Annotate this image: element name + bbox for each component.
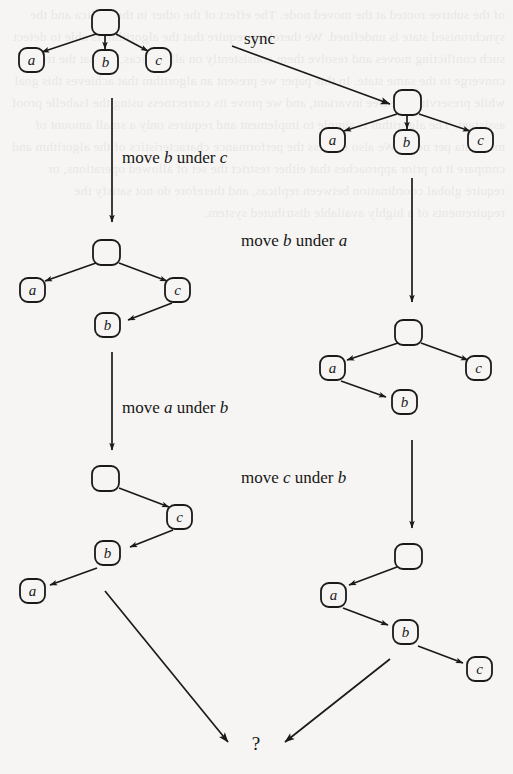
tree-right-mid-root-node[interactable] xyxy=(395,320,422,345)
tree-initial-node-c-label: c xyxy=(155,52,162,68)
tree-left-mid-edge-root-a xyxy=(45,263,96,281)
question-mark-label: ? xyxy=(252,733,260,754)
tree-synced-node-c[interactable]: c xyxy=(468,128,493,152)
sync-label: sync xyxy=(244,29,276,48)
tree-right-mid-node-b[interactable]: b xyxy=(392,390,417,414)
tree-synced: a b c xyxy=(320,90,493,154)
tree-right-mid: a c b xyxy=(320,320,491,414)
tree-right-bottom: a b c xyxy=(321,544,492,681)
tree-synced-node-a[interactable]: a xyxy=(320,128,345,152)
tree-synced-node-b[interactable]: b xyxy=(394,130,419,154)
tree-right-bottom-edge-b-c xyxy=(418,646,463,663)
tree-left-mid-node-a-label: a xyxy=(29,282,37,298)
tree-initial: a b c xyxy=(19,10,171,74)
tree-initial-root-node[interactable] xyxy=(92,10,119,35)
tree-synced-root-node[interactable] xyxy=(394,90,421,115)
tree-left-bottom-edge-c-b xyxy=(130,530,173,547)
tree-left-mid-root-node[interactable] xyxy=(93,240,120,265)
label-move-c-under-b: move c under b xyxy=(241,468,346,487)
tree-synced-node-b-label: b xyxy=(403,134,411,150)
tree-synced-node-c-label: c xyxy=(477,132,484,148)
tree-left-mid-node-c-label: c xyxy=(174,282,181,298)
tree-initial-edge-root-a xyxy=(42,34,96,52)
tree-left-bottom-root-node[interactable] xyxy=(92,466,119,491)
tree-left-mid-edge-c-b xyxy=(128,303,172,320)
tree-left-mid-node-b[interactable]: b xyxy=(95,313,120,337)
tree-initial-edge-root-c xyxy=(116,34,148,51)
tree-right-bottom-node-c-label: c xyxy=(476,661,483,677)
tree-right-mid-node-a-label: a xyxy=(329,360,337,376)
tree-initial-node-a-label: a xyxy=(28,52,36,68)
tree-right-mid-node-b-label: b xyxy=(401,394,409,410)
tree-initial-node-c[interactable]: c xyxy=(146,48,171,72)
tree-left-mid-node-b-label: b xyxy=(104,317,112,333)
tree-synced-edge-root-c xyxy=(419,114,470,131)
label-move-b-under-a: move b under a xyxy=(241,231,347,250)
tree-initial-node-b-label: b xyxy=(102,54,110,70)
tree-left-bottom-node-c[interactable]: c xyxy=(167,505,192,529)
label-move-b-under-c: move b under c xyxy=(122,148,228,167)
tree-left-mid-edge-root-c xyxy=(119,263,167,281)
tree-right-bottom-node-b-label: b xyxy=(402,624,410,640)
tree-right-bottom-root-node[interactable] xyxy=(395,544,422,569)
tree-left-bottom-node-a-label: a xyxy=(29,583,37,599)
tree-left-bottom-node-c-label: c xyxy=(176,509,183,525)
tree-synced-edge-root-a xyxy=(344,114,397,131)
label-move-a-under-b: move a under b xyxy=(122,398,228,417)
tree-left-mid: a c b xyxy=(20,240,190,337)
tree-right-mid-edge-root-c xyxy=(421,343,468,360)
tree-synced-node-a-label: a xyxy=(329,132,337,148)
tree-left-bottom-node-a[interactable]: a xyxy=(20,579,45,603)
tree-left-bottom-edge-b-a xyxy=(50,568,97,585)
tree-left-mid-node-c[interactable]: c xyxy=(165,278,190,302)
arrow-right-to-question xyxy=(285,659,390,742)
tree-left-bottom-node-b-label: b xyxy=(104,545,112,561)
arrow-left-to-question xyxy=(105,591,228,742)
tree-right-bottom-node-a[interactable]: a xyxy=(321,583,346,607)
tree-right-bottom-node-b[interactable]: b xyxy=(393,620,418,644)
tree-initial-node-b[interactable]: b xyxy=(93,50,118,74)
tree-left-mid-node-a[interactable]: a xyxy=(20,278,45,302)
tree-left-bottom: c b a xyxy=(20,466,192,603)
sync-arrow xyxy=(232,46,390,104)
tree-right-bottom-edge-a-b xyxy=(343,608,388,625)
tree-right-mid-edge-root-a xyxy=(347,343,398,360)
tree-right-mid-edge-a-b xyxy=(341,381,386,397)
tree-right-mid-node-a[interactable]: a xyxy=(320,356,345,380)
tree-right-bottom-node-c[interactable]: c xyxy=(467,657,492,681)
tree-right-bottom-edge-root-a xyxy=(349,567,397,585)
tree-initial-node-a[interactable]: a xyxy=(19,48,44,72)
tree-right-mid-node-c[interactable]: c xyxy=(466,356,491,380)
tree-transformation-diagram: a b c sync a b xyxy=(0,0,513,774)
figure-canvas: of the subtree rooted at the moved node.… xyxy=(0,0,513,774)
tree-left-bottom-edge-root-c xyxy=(119,488,169,507)
tree-right-bottom-node-a-label: a xyxy=(330,587,338,603)
tree-right-mid-node-c-label: c xyxy=(475,360,482,376)
tree-left-bottom-node-b[interactable]: b xyxy=(95,541,120,565)
